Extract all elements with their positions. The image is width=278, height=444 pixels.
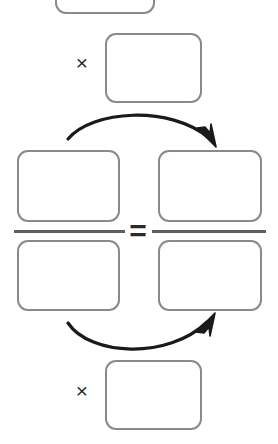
- answer-box-left-denominator[interactable]: [17, 240, 120, 311]
- answer-box-left-numerator[interactable]: [17, 150, 120, 222]
- multiplication-sign-top: ×: [70, 52, 94, 73]
- top-arrow-icon: [68, 115, 216, 147]
- fraction-bar-right: [152, 230, 266, 233]
- multiplication-sign-bottom: ×: [70, 380, 94, 401]
- answer-box-multiplier-top[interactable]: [105, 33, 202, 103]
- answer-box-right-numerator[interactable]: [158, 150, 262, 222]
- proportion-diagram: × = ×: [0, 0, 278, 444]
- answer-box-top-result[interactable]: [55, 0, 155, 14]
- bottom-arrow-icon: [68, 313, 215, 349]
- fraction-bar-left: [14, 230, 125, 233]
- answer-box-right-denominator[interactable]: [158, 240, 262, 311]
- equals-sign: =: [124, 216, 152, 246]
- answer-box-multiplier-bottom[interactable]: [105, 360, 202, 430]
